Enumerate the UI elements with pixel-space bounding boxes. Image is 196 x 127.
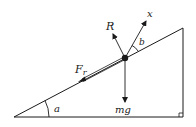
angle-a-arc (45, 101, 49, 117)
incline-triangle (14, 28, 183, 117)
angle-b-label: b (139, 37, 145, 47)
incline-diagram: a Fr R x b mg (0, 0, 196, 127)
x-axis-label: x (147, 8, 153, 19)
normal-force-label: R (105, 20, 114, 33)
angle-b-arc (132, 46, 138, 52)
angle-a-label: a (54, 103, 60, 114)
normal-force-arrow (113, 34, 125, 58)
friction-label: Fr (74, 63, 88, 77)
weight-label: mg (115, 104, 131, 115)
right-angle-marker (179, 113, 183, 117)
body-dot (122, 55, 128, 61)
